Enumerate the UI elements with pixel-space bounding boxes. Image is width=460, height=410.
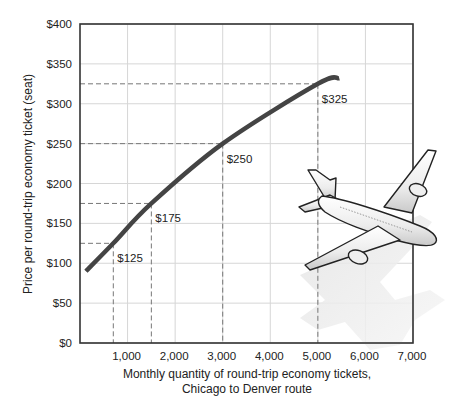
y-axis-tick-labels: $0$50$100$150$200$250$300$350$400 bbox=[46, 18, 72, 349]
y-tick-label: $400 bbox=[46, 18, 72, 30]
x-tick-label: 5,000 bbox=[302, 350, 331, 362]
y-tick-label: $200 bbox=[46, 178, 72, 190]
point-label: $250 bbox=[227, 153, 253, 165]
point-label: $125 bbox=[117, 252, 143, 264]
y-tick-label: $350 bbox=[46, 58, 72, 70]
y-tick-label: $150 bbox=[46, 217, 72, 229]
x-tick-label: 1,000 bbox=[112, 350, 141, 362]
y-tick-label: $50 bbox=[53, 297, 72, 309]
x-tick-label: 3,000 bbox=[207, 350, 236, 362]
x-tick-label: 7,000 bbox=[398, 350, 427, 362]
demand-chart: $125$175$250$325 $0$50$100$150$200$250$3… bbox=[0, 0, 460, 410]
y-tick-label: $0 bbox=[59, 337, 72, 349]
y-tick-label: $300 bbox=[46, 98, 72, 110]
x-tick-label: 2,000 bbox=[160, 350, 189, 362]
y-axis-title: Price per round-trip economy ticket (sea… bbox=[21, 74, 35, 294]
y-tick-label: $100 bbox=[46, 257, 72, 269]
x-axis-title-line2: Chicago to Denver route bbox=[182, 382, 312, 396]
y-tick-label: $250 bbox=[46, 138, 72, 150]
point-label: $325 bbox=[322, 93, 348, 105]
x-axis-tick-labels: 1,0002,0003,0004,0005,0006,0007,000 bbox=[112, 350, 426, 362]
point-label: $175 bbox=[155, 212, 181, 224]
x-axis-title: Monthly quantity of round-trip economy t… bbox=[123, 367, 371, 381]
x-tick-label: 4,000 bbox=[255, 350, 284, 362]
x-tick-label: 6,000 bbox=[350, 350, 379, 362]
